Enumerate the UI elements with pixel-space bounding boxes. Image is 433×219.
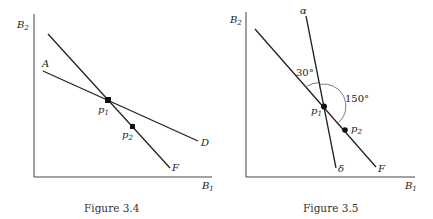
label-p1: p1 (98, 104, 109, 117)
label-f: F (377, 163, 386, 174)
point-p2 (130, 124, 135, 129)
label-p2: p2 (351, 123, 362, 136)
label-p2: p2 (122, 129, 133, 142)
y-axis-label: B2 (229, 14, 242, 27)
point-p2 (342, 127, 348, 133)
x-axis-label: B1 (404, 180, 417, 193)
label-alpha: α (300, 5, 307, 16)
label-p1: p1 (311, 105, 322, 118)
y-axis-label: B2 (16, 19, 29, 32)
label-d: D (200, 137, 209, 148)
angle-label-30: 30° (296, 67, 314, 78)
angle-label-150: 150° (345, 93, 369, 104)
label-delta: δ (338, 163, 344, 174)
angle-arc-30 (307, 83, 319, 87)
x-axis-label: B1 (201, 180, 214, 193)
figure-3-4: B2 B1 A D F p1 p2 Figure 3.4 (16, 14, 214, 214)
point-p1 (321, 104, 327, 110)
label-a: A (41, 58, 49, 69)
label-f: F (171, 162, 180, 173)
point-p1 (105, 97, 111, 103)
figure-3-5: B2 B1 α δ F 30° 150° p1 p2 Figure 3.5 (229, 5, 417, 214)
line-a-d (43, 71, 198, 141)
figures-canvas: B2 B1 A D F p1 p2 Figure 3.4 B2 B1 α δ F… (0, 0, 433, 219)
caption: Figure 3.5 (303, 202, 358, 214)
caption: Figure 3.4 (84, 202, 140, 214)
